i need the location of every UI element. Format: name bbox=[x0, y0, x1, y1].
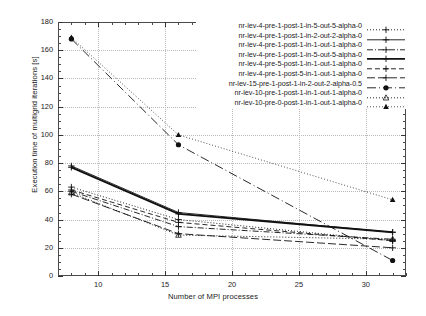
x-axis-title: Number of MPI processes bbox=[0, 292, 426, 301]
data-point-marker bbox=[390, 258, 395, 263]
legend-key-sample bbox=[366, 21, 406, 31]
x-axis-tick-label: 25 bbox=[295, 281, 303, 288]
legend-item: nr-lev-4-pre-1-post-1-in-5-out-5-alpha-0 bbox=[198, 50, 406, 60]
y-axis-tick-label: 80 bbox=[45, 159, 53, 166]
legend-key-sample bbox=[366, 98, 406, 108]
legend-label: nr-lev-4-pre-1-post-1-in-5-out-5-alpha-0 bbox=[239, 21, 362, 31]
legend-item: nr-lev-4-pre-1-post-1-in-2-out-2-alpha-0 bbox=[198, 31, 406, 41]
data-point-marker bbox=[68, 164, 74, 170]
legend-label: nr-lev-4-pre-5-post-1-in-1-out-1-alpha-0 bbox=[239, 59, 362, 69]
legend-item: nr-lev-10-pre-0-post-1-in-1-out-1-alpha-… bbox=[198, 98, 406, 108]
y-axis-tick-label: 20 bbox=[45, 244, 53, 251]
series-line bbox=[71, 166, 392, 232]
y-axis-tick-label: 60 bbox=[45, 188, 53, 195]
y-axis-tick-label: 100 bbox=[41, 131, 53, 138]
legend-key-sample bbox=[366, 69, 406, 79]
y-axis-major-tick bbox=[58, 276, 63, 277]
data-point-marker bbox=[383, 104, 389, 109]
legend-label: nr-lev-15-pre-1-post-1-in-2-out-2-alpha-… bbox=[229, 79, 362, 89]
data-series bbox=[68, 191, 396, 251]
legend-label: nr-lev-4-pre-1-post-5-in-1-out-1-alpha-0 bbox=[239, 69, 362, 79]
y-axis-tick-label: 120 bbox=[41, 103, 53, 110]
legend-key-sample bbox=[366, 50, 406, 60]
legend-item: nr-lev-15-pre-1-post-1-in-2-out-2-alpha-… bbox=[198, 79, 406, 89]
legend-item: nr-lev-4-pre-5-post-1-in-1-out-1-alpha-0 bbox=[198, 59, 406, 69]
legend-label: nr-lev-10-pre-1-post-1-in-1-out-1-alpha-… bbox=[235, 88, 362, 98]
chart-legend: nr-lev-4-pre-1-post-1-in-5-out-5-alpha-0… bbox=[196, 20, 408, 109]
legend-label: nr-lev-4-pre-1-post-1-in-2-out-2-alpha-0 bbox=[239, 31, 362, 41]
legend-item: nr-lev-10-pre-1-post-1-in-1-out-1-alpha-… bbox=[198, 88, 406, 98]
y-axis-title: Execution time of multigrid iterations [… bbox=[30, 15, 39, 235]
data-point-marker bbox=[389, 245, 395, 251]
data-series bbox=[69, 190, 396, 242]
legend-key-sample bbox=[366, 88, 406, 98]
data-point-marker bbox=[69, 35, 75, 40]
x-axis-tick-label: 15 bbox=[161, 281, 169, 288]
legend-item: nr-lev-4-pre-1-post-1-in-1-out-1-alpha-0 bbox=[198, 40, 406, 50]
x-axis-tick-label: 10 bbox=[94, 281, 102, 288]
legend-label: nr-lev-4-pre-1-post-1-in-1-out-1-alpha-0 bbox=[239, 40, 362, 50]
data-point-marker bbox=[176, 142, 181, 147]
data-series bbox=[68, 184, 396, 244]
legend-key-sample bbox=[366, 79, 406, 89]
legend-label: nr-lev-10-pre-0-post-1-in-1-out-1-alpha-… bbox=[235, 98, 362, 108]
series-line bbox=[71, 193, 392, 240]
data-series bbox=[68, 188, 396, 242]
x-axis-minor-tick bbox=[406, 273, 407, 276]
series-line bbox=[71, 191, 392, 239]
legend-key-sample bbox=[366, 40, 406, 50]
y-axis-tick-label: 140 bbox=[41, 75, 53, 82]
x-axis-tick-label: 20 bbox=[228, 281, 236, 288]
legend-key-sample bbox=[366, 59, 406, 69]
legend-item: nr-lev-4-pre-1-post-1-in-5-out-5-alpha-0 bbox=[198, 21, 406, 31]
y-axis-major-tick bbox=[401, 276, 406, 277]
chart-figure: Execution time of multigrid iterations [… bbox=[0, 0, 426, 316]
y-axis-tick-label: 160 bbox=[41, 47, 53, 54]
data-point-marker bbox=[389, 229, 395, 235]
legend-key-sample bbox=[366, 31, 406, 41]
y-axis-tick-label: 40 bbox=[45, 216, 53, 223]
x-axis-tick-label: 30 bbox=[362, 281, 370, 288]
series-line bbox=[71, 194, 392, 248]
series-line bbox=[71, 190, 392, 241]
series-line bbox=[71, 167, 392, 232]
series-line bbox=[71, 187, 392, 241]
y-axis-tick-label: 180 bbox=[41, 18, 53, 25]
y-axis-tick-label: 0 bbox=[49, 272, 53, 279]
legend-label: nr-lev-4-pre-1-post-1-in-5-out-5-alpha-0 bbox=[239, 50, 362, 60]
legend-item: nr-lev-4-pre-1-post-5-in-1-out-1-alpha-0 bbox=[198, 69, 406, 79]
